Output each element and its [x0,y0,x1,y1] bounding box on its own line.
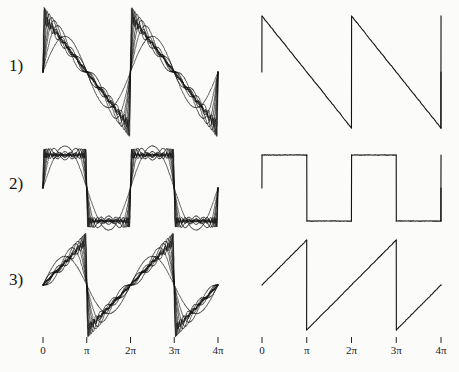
x-tick-label-4: 4π [212,344,223,356]
x-tick-label-right-0: 0 [259,344,265,356]
x-axis-ticks-right [262,337,441,343]
x-tick-label-right-1: π [304,344,310,356]
x-tick-label-right-4: 4π [435,344,446,356]
x-axis-ticks-left [43,337,218,343]
x-tick-label-0: 0 [40,344,46,356]
ideal-rising-sawtooth [262,240,441,330]
row-label-2: 2) [9,174,23,194]
row-label-3: 3) [9,270,23,290]
x-tick-label-3: 3π [169,344,180,356]
fourier-series-figure: 1) 2) 3) 0 π 2π 3π 4π 0 π 2π 3π 4π [0,0,459,372]
row-label-1: 1) [9,56,23,76]
partial-sum-family-row-2 [43,146,218,230]
waveform-plots [0,0,459,372]
ideal-square-wave [262,155,441,221]
partial-sum-family-row-1 [43,7,218,136]
x-tick-label-right-2: 2π [346,344,357,356]
partial-sum-family-row-3 [43,233,218,337]
x-tick-label-2: 2π [125,344,136,356]
x-tick-label-right-3: 3π [391,344,402,356]
x-tick-label-1: π [84,344,90,356]
ideal-falling-sawtooth [262,16,441,128]
